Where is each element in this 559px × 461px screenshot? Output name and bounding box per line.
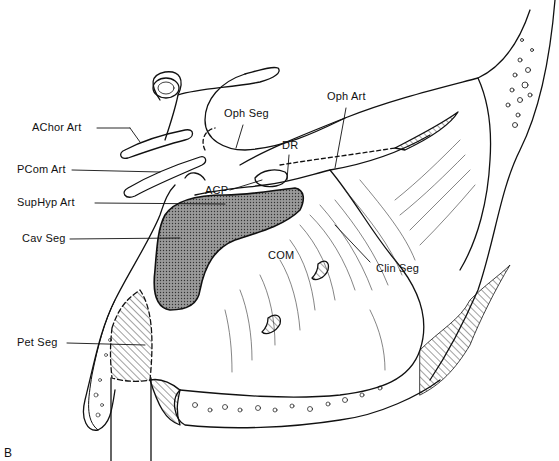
panel-letter: B bbox=[4, 446, 12, 460]
anatomical-illustration bbox=[0, 0, 559, 461]
label-cav-seg: Cav Seg bbox=[22, 233, 66, 244]
label-dr: DR bbox=[282, 140, 298, 151]
label-pcom-art: PCom Art bbox=[17, 164, 66, 175]
label-suphyp-art: SupHyp Art bbox=[17, 197, 75, 208]
label-clin-seg: Clin Seg bbox=[376, 263, 419, 274]
label-oph-art: Oph Art bbox=[327, 91, 366, 102]
label-achor-art: AChor Art bbox=[32, 122, 82, 133]
label-pet-seg: Pet Seg bbox=[17, 337, 58, 348]
petrous-segment bbox=[111, 290, 152, 381]
label-acp: ACP bbox=[205, 185, 228, 196]
label-com: COM bbox=[268, 250, 294, 261]
label-oph-seg: Oph Seg bbox=[224, 108, 269, 119]
